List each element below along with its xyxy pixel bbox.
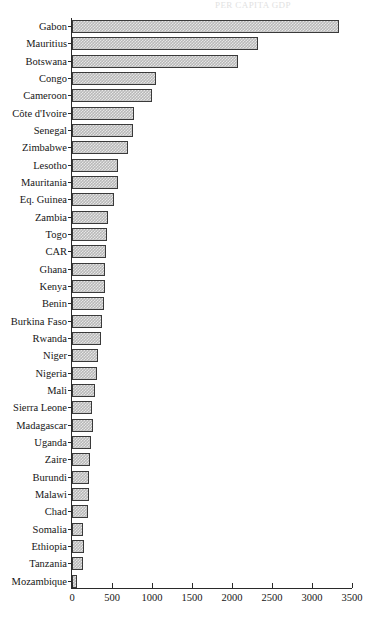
bar-category-label: Mali bbox=[0, 382, 67, 399]
bar bbox=[72, 141, 128, 154]
bar-row: Cameroon bbox=[0, 87, 368, 104]
bar bbox=[72, 228, 107, 241]
bar-category-label: Kenya bbox=[0, 278, 67, 295]
bar-container bbox=[72, 139, 128, 156]
y-axis-tick bbox=[68, 442, 72, 443]
bar bbox=[72, 89, 152, 102]
bar-row: Mauritius bbox=[0, 35, 368, 52]
bar-row: Lesotho bbox=[0, 157, 368, 174]
bar-category-label: Zaire bbox=[0, 451, 67, 468]
bar bbox=[72, 505, 88, 518]
bar bbox=[72, 367, 97, 380]
x-axis-tick bbox=[312, 583, 313, 588]
bar-container bbox=[72, 53, 238, 70]
bar-container bbox=[72, 503, 88, 520]
bar-row: Malawi bbox=[0, 486, 368, 503]
bar-row: Gabon bbox=[0, 18, 368, 35]
bar-container bbox=[72, 434, 91, 451]
bar-container bbox=[72, 365, 97, 382]
bar-container bbox=[72, 278, 105, 295]
bar-container bbox=[72, 313, 102, 330]
bar-row: Ethiopia bbox=[0, 538, 368, 555]
bar-container bbox=[72, 122, 133, 139]
x-axis-tick-label: 3500 bbox=[327, 592, 368, 603]
bar-row: Côte d'Ivoire bbox=[0, 105, 368, 122]
bar-container bbox=[72, 486, 89, 503]
bar-container bbox=[72, 382, 95, 399]
bar bbox=[72, 488, 89, 501]
bar-row: Benin bbox=[0, 295, 368, 312]
bar bbox=[72, 245, 106, 258]
bar-category-label: Senegal bbox=[0, 122, 67, 139]
y-axis-tick bbox=[68, 563, 72, 564]
bar-row: Tanzania bbox=[0, 555, 368, 572]
bar-container bbox=[72, 261, 105, 278]
bar-row: Zaire bbox=[0, 451, 368, 468]
bar bbox=[72, 107, 134, 120]
bar bbox=[72, 193, 114, 206]
y-axis-tick bbox=[68, 78, 72, 79]
bar-category-label: Botswana bbox=[0, 53, 67, 70]
bar bbox=[72, 523, 83, 536]
y-axis-tick bbox=[68, 477, 72, 478]
bar-container bbox=[72, 191, 114, 208]
y-axis-tick bbox=[68, 390, 72, 391]
bar-row: Mauritania bbox=[0, 174, 368, 191]
bar-container bbox=[72, 105, 134, 122]
y-axis-tick bbox=[68, 373, 72, 374]
y-axis-tick bbox=[68, 286, 72, 287]
bar-category-label: Benin bbox=[0, 295, 67, 312]
plot-area: GabonMauritiusBotswanaCongoCameroonCôte … bbox=[0, 0, 368, 620]
y-axis-tick bbox=[68, 459, 72, 460]
bar bbox=[72, 297, 104, 310]
x-axis-tick bbox=[352, 583, 353, 588]
y-axis-tick bbox=[68, 494, 72, 495]
bar-container bbox=[72, 18, 339, 35]
bar-category-label: Congo bbox=[0, 70, 67, 87]
x-axis-tick bbox=[72, 583, 73, 588]
y-axis-tick bbox=[68, 425, 72, 426]
y-axis-tick bbox=[68, 130, 72, 131]
bar-category-label: Mauritania bbox=[0, 174, 67, 191]
bar-category-label: Zambia bbox=[0, 209, 67, 226]
bar bbox=[72, 315, 102, 328]
y-axis-tick bbox=[68, 26, 72, 27]
bar-row: Somalia bbox=[0, 521, 368, 538]
bar bbox=[72, 280, 105, 293]
y-axis-tick bbox=[68, 95, 72, 96]
x-axis-tick bbox=[152, 583, 153, 588]
bar-row: Kenya bbox=[0, 278, 368, 295]
bar-row: Senegal bbox=[0, 122, 368, 139]
bar bbox=[72, 159, 118, 172]
y-axis-tick bbox=[68, 251, 72, 252]
bar-container bbox=[72, 469, 89, 486]
bar-row: Ghana bbox=[0, 261, 368, 278]
bar-container bbox=[72, 243, 106, 260]
bar-container bbox=[72, 295, 104, 312]
bar-row: Mali bbox=[0, 382, 368, 399]
y-axis-tick bbox=[68, 234, 72, 235]
bar bbox=[72, 176, 118, 189]
bar bbox=[72, 401, 92, 414]
bar bbox=[72, 384, 95, 397]
bar-container bbox=[72, 417, 93, 434]
bar-category-label: Rwanda bbox=[0, 330, 67, 347]
y-axis-tick bbox=[68, 303, 72, 304]
bar-row: CAR bbox=[0, 243, 368, 260]
bar-category-label: Uganda bbox=[0, 434, 67, 451]
y-axis-tick bbox=[68, 147, 72, 148]
bar-container bbox=[72, 521, 83, 538]
x-axis-tick bbox=[232, 583, 233, 588]
y-axis-tick bbox=[68, 61, 72, 62]
bar-category-label: Togo bbox=[0, 226, 67, 243]
x-axis-tick bbox=[272, 583, 273, 588]
bar bbox=[72, 72, 156, 85]
bar bbox=[72, 436, 91, 449]
bar-row: Zambia bbox=[0, 209, 368, 226]
bar-category-label: Tanzania bbox=[0, 555, 67, 572]
y-axis-tick bbox=[68, 546, 72, 547]
y-axis-tick bbox=[68, 529, 72, 530]
bar-row: Niger bbox=[0, 347, 368, 364]
y-axis-tick bbox=[68, 355, 72, 356]
y-axis-tick bbox=[68, 511, 72, 512]
